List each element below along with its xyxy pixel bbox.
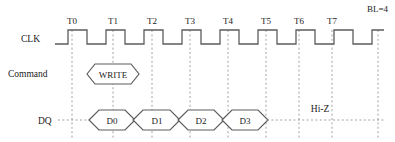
dq-row: D0 D1 D2 D3 Hi-Z — [58, 104, 386, 130]
tick-label-t4: T4 — [223, 16, 233, 26]
timing-diagram: BL=4 T0 T1 T2 T3 T4 T5 T6 T7 CLK Command — [0, 0, 395, 142]
dq-cell-d0: D0 — [89, 110, 135, 130]
write-label: WRITE — [99, 70, 128, 80]
dq-cell-d3: D3 — [222, 110, 268, 130]
d0-label: D0 — [107, 116, 118, 126]
hiz-label: Hi-Z — [311, 104, 330, 114]
tick-label-t5: T5 — [261, 16, 271, 26]
d2-label: D2 — [196, 116, 207, 126]
dq-cell-d1: D1 — [133, 110, 180, 130]
clk-waveform — [55, 30, 384, 44]
tick-label-t0: T0 — [67, 16, 77, 26]
tick-label-t2: T2 — [147, 16, 157, 26]
d3-label: D3 — [240, 116, 251, 126]
tick-label-t7: T7 — [327, 16, 337, 26]
tick-label-t3: T3 — [185, 16, 195, 26]
signal-label-clk: CLK — [21, 34, 40, 44]
dq-cell-d2: D2 — [178, 110, 224, 130]
burst-length-label: BL=4 — [367, 4, 389, 14]
tick-label-t6: T6 — [294, 16, 304, 26]
d1-label: D1 — [152, 116, 163, 126]
signal-label-command: Command — [8, 69, 48, 79]
tick-label-group: T0 T1 T2 T3 T4 T5 T6 T7 — [67, 16, 337, 26]
tick-label-t1: T1 — [108, 16, 118, 26]
signal-label-dq: DQ — [38, 116, 52, 126]
command-cell-write: WRITE — [87, 64, 139, 84]
timing-diagram-canvas: BL=4 T0 T1 T2 T3 T4 T5 T6 T7 CLK Command — [0, 0, 395, 142]
